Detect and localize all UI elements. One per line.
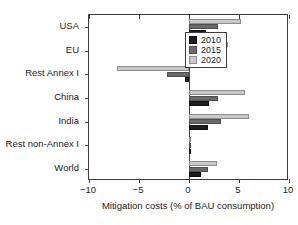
bar-2020-india: [189, 114, 249, 119]
x-axis-tick-label: 0: [185, 184, 190, 195]
x-axis-tick-top: [139, 15, 140, 19]
x-axis-tick-top: [189, 15, 190, 19]
y-axis-tick: [85, 122, 89, 123]
bar-2015-rest-non-annex-i: [189, 143, 191, 148]
bar-2020-china: [189, 90, 245, 95]
y-axis-tick: [85, 98, 89, 99]
y-axis-label-rest-non-annex-i: Rest non-Annex I: [6, 139, 79, 149]
y-axis-label-rest-annex-i: Rest Annex I: [25, 68, 79, 78]
x-axis-tick: [289, 179, 290, 183]
y-axis-tick: [85, 51, 89, 52]
bar-2020-rest-annex-i: [117, 66, 189, 71]
x-axis-tick: [139, 179, 140, 183]
legend-item: 2010: [189, 35, 221, 45]
mitigation-costs-bar-chart: USAEURest Annex IChinaIndiaRest non-Anne…: [0, 0, 298, 225]
legend-item: 2015: [189, 45, 221, 55]
legend-swatch-2020-icon: [189, 56, 197, 64]
legend-label-2015: 2015: [201, 45, 221, 55]
y-axis-label-china: China: [54, 92, 79, 102]
bar-2010-india: [189, 125, 208, 130]
bar-2015-world: [189, 167, 208, 172]
legend-item: 2020: [189, 55, 221, 65]
plot-area: 2010 2015 2020: [88, 14, 288, 180]
legend-swatch-2010-icon: [189, 36, 197, 44]
x-axis-tick-top: [289, 15, 290, 19]
y-axis-tick: [85, 169, 89, 170]
x-axis-tick-top: [239, 15, 240, 19]
bar-2020-rest-non-annex-i: [189, 137, 191, 142]
bar-2010-world: [189, 172, 201, 177]
x-axis-tick-top: [89, 15, 90, 19]
x-axis-tick: [239, 179, 240, 183]
bar-2010-rest-annex-i: [185, 77, 190, 82]
y-axis-label-india: India: [58, 116, 79, 126]
legend-label-2010: 2010: [201, 35, 221, 45]
y-axis-label-world: World: [54, 163, 79, 173]
x-axis-tick: [189, 179, 190, 183]
x-axis-tick-label: −5: [133, 184, 144, 195]
bar-2015-india: [189, 119, 221, 124]
x-axis-tick: [89, 179, 90, 183]
bar-2020-world: [189, 161, 217, 166]
y-axis-tick: [85, 27, 89, 28]
x-axis-tick-label: 5: [235, 184, 240, 195]
y-axis-label-usa: USA: [59, 21, 79, 31]
x-axis-tick-label: 10: [283, 184, 294, 195]
bar-2015-china: [189, 96, 218, 101]
y-axis-category-labels: USAEURest Annex IChinaIndiaRest non-Anne…: [0, 14, 85, 180]
bar-2010-china: [189, 101, 209, 106]
legend-label-2020: 2020: [201, 55, 221, 65]
bar-2015-usa: [189, 24, 218, 29]
y-axis-tick: [85, 74, 89, 75]
x-axis-tick-label: −10: [80, 184, 96, 195]
bar-2010-rest-non-annex-i: [189, 149, 191, 154]
legend-swatch-2015-icon: [189, 46, 197, 54]
x-axis-title: Mitigation costs (% of BAU consumption): [88, 200, 288, 211]
bar-2020-usa: [189, 19, 241, 24]
y-axis-tick: [85, 145, 89, 146]
y-axis-label-eu: EU: [66, 45, 79, 55]
legend: 2010 2015 2020: [185, 32, 227, 68]
bar-2015-rest-annex-i: [167, 72, 189, 77]
